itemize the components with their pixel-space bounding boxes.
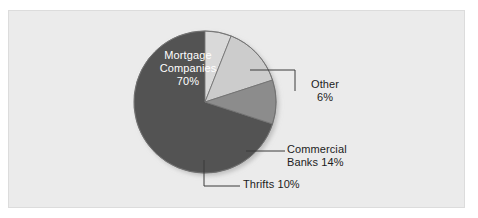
pie-label-mortgage-companies-line1: Mortgage bbox=[143, 49, 233, 62]
pie-label-mortgage-companies-value: 70% bbox=[143, 75, 233, 88]
pie-label-mortgage-companies-line2: Companies bbox=[143, 62, 233, 75]
pie-label-thrifts: Thrifts 10% bbox=[243, 178, 335, 191]
pie-label-other-line1: Other bbox=[297, 78, 353, 91]
chart-figure: Mortgage Companies 70% Other 6% Commerci… bbox=[0, 0, 478, 218]
pie-label-other: Other 6% bbox=[297, 78, 353, 104]
pie-label-commercial-banks: Commercial Banks 14% bbox=[287, 143, 391, 169]
pie-chart-graphic bbox=[0, 0, 478, 218]
pie-label-mortgage-companies: Mortgage Companies 70% bbox=[143, 49, 233, 88]
pie-label-commercial-banks-line2: Banks 14% bbox=[287, 156, 391, 169]
pie-label-other-value: 6% bbox=[297, 91, 353, 104]
pie-label-commercial-banks-line1: Commercial bbox=[287, 143, 391, 156]
pie-label-thrifts-line1: Thrifts 10% bbox=[243, 178, 335, 191]
